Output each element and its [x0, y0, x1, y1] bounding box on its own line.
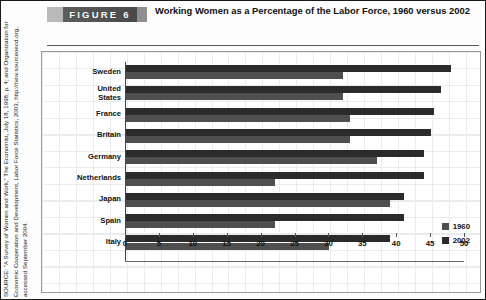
- category-label: Germany: [41, 153, 121, 162]
- x-tick: [159, 233, 160, 237]
- x-tick: [261, 233, 262, 237]
- category-label: Japan: [41, 195, 121, 204]
- legend-item: 1960: [442, 222, 470, 231]
- bar-row: Britain: [125, 127, 464, 148]
- figure-title: Working Women as a Percentage of the Lab…: [155, 5, 481, 18]
- chart-legend: 19602002: [442, 222, 470, 250]
- bar-row: United States: [125, 84, 464, 105]
- x-axis-ticks: 05101520253035404550: [125, 233, 464, 263]
- bar-2002: [126, 193, 404, 200]
- x-tick: [396, 233, 397, 237]
- x-tick: [328, 233, 329, 237]
- x-tick-label: 0: [123, 239, 127, 248]
- bar-row: Spain: [125, 212, 464, 233]
- category-label: United States: [41, 85, 121, 102]
- x-tick-label: 40: [392, 239, 401, 248]
- bar-1960: [126, 72, 343, 79]
- category-label: Spain: [41, 217, 121, 226]
- source-note: SOURCE: "A Survey of Women and Work," Th…: [1, 5, 30, 297]
- source-note-rail: SOURCE: "A Survey of Women and Work," Th…: [1, 1, 33, 300]
- bar-row: Sweden: [125, 63, 464, 84]
- bar-rows: SwedenUnited StatesFranceBritainGermanyN…: [125, 62, 464, 262]
- plot-frame: SwedenUnited StatesFranceBritainGermanyN…: [41, 51, 481, 293]
- x-tick-label: 35: [358, 239, 367, 248]
- bar-2002: [126, 108, 434, 115]
- bar-2002: [126, 65, 451, 72]
- chart-container: SwedenUnited StatesFranceBritainGermanyN…: [41, 51, 481, 293]
- bar-1960: [126, 136, 350, 143]
- bar-1960: [126, 157, 377, 164]
- bar-2002: [126, 214, 404, 221]
- x-tick-label: 20: [256, 239, 265, 248]
- x-tick: [125, 233, 126, 237]
- legend-label: 2002: [453, 236, 470, 245]
- category-label: Italy: [41, 238, 121, 247]
- x-tick-label: 45: [426, 239, 435, 248]
- bar-1960: [126, 221, 275, 228]
- header-divider: [47, 45, 479, 46]
- plot-area: SwedenUnited StatesFranceBritainGermanyN…: [125, 62, 464, 262]
- legend-label: 1960: [453, 222, 470, 231]
- legend-swatch: [442, 223, 449, 230]
- x-tick: [362, 233, 363, 237]
- figure-page: SOURCE: "A Survey of Women and Work," Th…: [0, 0, 486, 300]
- category-label: France: [41, 110, 121, 119]
- figure-number-label: FIGURE 6: [63, 9, 130, 20]
- bar-1960: [126, 200, 390, 207]
- category-label: Netherlands: [41, 174, 121, 183]
- bar-1960: [126, 115, 350, 122]
- bar-2002: [126, 86, 441, 93]
- category-label: Sweden: [41, 68, 121, 77]
- figure-header: FIGURE 6 Working Women as a Percentage o…: [41, 5, 481, 43]
- x-tick: [295, 233, 296, 237]
- legend-swatch: [442, 237, 449, 244]
- figure-number-badge: FIGURE 6: [47, 7, 147, 22]
- bar-2002: [126, 150, 424, 157]
- x-tick-label: 15: [222, 239, 231, 248]
- bar-row: France: [125, 106, 464, 127]
- x-tick-label: 25: [290, 239, 299, 248]
- x-tick-label: 30: [324, 239, 333, 248]
- x-tick-label: 5: [157, 239, 161, 248]
- x-tick: [193, 233, 194, 237]
- x-tick-label: 10: [188, 239, 197, 248]
- bar-row: Germany: [125, 148, 464, 169]
- bar-row: Netherlands: [125, 170, 464, 191]
- x-tick: [430, 233, 431, 237]
- legend-item: 2002: [442, 236, 470, 245]
- x-tick: [227, 233, 228, 237]
- bar-2002: [126, 129, 431, 136]
- bar-row: Japan: [125, 191, 464, 212]
- bar-1960: [126, 179, 275, 186]
- bar-1960: [126, 93, 343, 100]
- category-label: Britain: [41, 131, 121, 140]
- bar-2002: [126, 172, 424, 179]
